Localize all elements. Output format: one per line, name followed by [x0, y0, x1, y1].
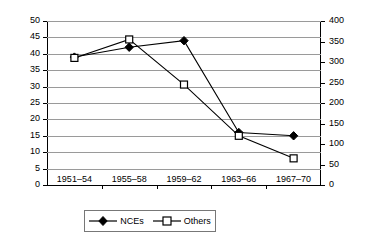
line-chart: 05101520253035404550 0501001502002503003… — [0, 0, 384, 244]
open-square-icon — [153, 215, 181, 227]
data-point-marker-filled-diamond — [125, 43, 133, 51]
data-point-marker-open-square — [126, 36, 133, 43]
data-series-layer — [0, 0, 384, 244]
chart-legend: NCEs Others — [84, 210, 216, 232]
legend-label-others: Others — [184, 217, 211, 226]
data-point-marker-filled-diamond — [289, 132, 297, 140]
filled-diamond-icon — [89, 215, 117, 227]
legend-item-nces: NCEs — [89, 215, 144, 227]
data-point-marker-open-square — [181, 81, 188, 88]
data-point-marker-open-square — [290, 155, 297, 162]
legend-item-others: Others — [153, 215, 211, 227]
data-point-marker-open-square — [235, 132, 242, 139]
legend-label-nces: NCEs — [120, 217, 144, 226]
data-point-marker-open-square — [71, 54, 78, 61]
data-point-marker-filled-diamond — [180, 36, 188, 44]
series-line-others — [74, 39, 293, 158]
